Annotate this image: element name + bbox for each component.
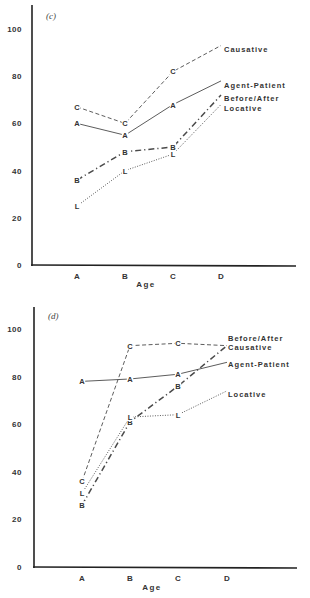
data-point-marker: C xyxy=(170,67,176,76)
series-label: Causative xyxy=(228,343,272,352)
data-point-marker: B xyxy=(79,501,85,510)
x-tick-label: D xyxy=(218,272,224,281)
y-tick-label: 80 xyxy=(12,373,22,382)
x-tick-label: B xyxy=(122,272,128,281)
x-axis xyxy=(31,265,296,266)
data-point-marker: C xyxy=(122,119,128,128)
panel-label: (c) xyxy=(46,11,56,21)
series-label: Locative xyxy=(228,390,266,399)
chart-panel-d: 020406080100ABCDAge(d)CCCCausativeAAAAge… xyxy=(7,307,297,592)
chart-canvas: 020406080100ABCDAge(c)CCCCausativeAAAAge… xyxy=(0,0,310,598)
x-tick-label: B xyxy=(127,574,133,583)
y-tick-label: 0 xyxy=(17,563,22,572)
series-label: Agent-Patient xyxy=(228,360,290,369)
data-point-marker: C xyxy=(127,342,133,351)
data-point-marker: A xyxy=(79,377,85,386)
y-tick-label: 20 xyxy=(12,214,22,223)
series-label: Locative xyxy=(224,104,262,113)
y-tick-label: 60 xyxy=(12,119,22,128)
x-axis-label: Age xyxy=(136,280,156,289)
series-line xyxy=(82,346,227,505)
data-point-marker: L xyxy=(123,167,128,176)
data-point-marker: A xyxy=(122,131,128,140)
data-point-marker: L xyxy=(128,413,133,422)
series-label: Before/After xyxy=(224,94,279,103)
data-point-marker: C xyxy=(175,339,181,348)
x-tick-label: D xyxy=(224,574,230,583)
x-axis-label: Age xyxy=(142,583,162,592)
panel-label: (d) xyxy=(48,311,59,321)
data-point-marker: A xyxy=(127,375,133,384)
series-line xyxy=(82,343,227,481)
y-tick-label: 80 xyxy=(12,72,22,81)
data-point-marker: L xyxy=(75,202,80,211)
y-tick-label: 60 xyxy=(12,420,22,429)
data-point-marker: B xyxy=(122,148,128,157)
x-tick-label: C xyxy=(175,574,181,583)
data-point-marker: L xyxy=(176,411,181,420)
chart-panel-c: 020406080100ABCDAge(c)CCCCausativeAAAAge… xyxy=(7,5,296,289)
series-line xyxy=(77,95,221,180)
series-line xyxy=(77,46,221,124)
y-tick-label: 0 xyxy=(17,261,22,270)
data-point-marker: L xyxy=(171,150,176,159)
series-label: Before/After xyxy=(228,334,283,343)
data-point-marker: C xyxy=(74,103,80,112)
y-tick-label: 40 xyxy=(12,468,22,477)
y-tick-label: 100 xyxy=(7,25,22,34)
data-point-marker: B xyxy=(74,176,80,185)
series-label: Agent-Patient xyxy=(224,81,286,90)
x-axis xyxy=(33,567,297,568)
y-tick-label: 100 xyxy=(7,325,22,334)
data-point-marker: A xyxy=(175,370,181,379)
series-label: Causative xyxy=(224,45,268,54)
series-line xyxy=(82,391,227,493)
x-tick-label: A xyxy=(79,574,85,583)
data-point-marker: B xyxy=(175,382,181,391)
series-locative: LLLLocative xyxy=(74,104,263,211)
data-point-marker: A xyxy=(74,119,80,128)
series-agent-patient: AAAAgent-Patient xyxy=(79,360,290,386)
x-tick-label: A xyxy=(74,272,80,281)
data-point-marker: L xyxy=(80,489,85,498)
series-line xyxy=(82,362,227,381)
data-point-marker: C xyxy=(79,477,85,486)
y-tick-label: 40 xyxy=(12,167,22,176)
series-locative: LLLLocative xyxy=(79,390,267,498)
data-point-marker: A xyxy=(170,101,176,110)
x-tick-label: C xyxy=(170,272,176,281)
y-tick-label: 20 xyxy=(12,515,22,524)
